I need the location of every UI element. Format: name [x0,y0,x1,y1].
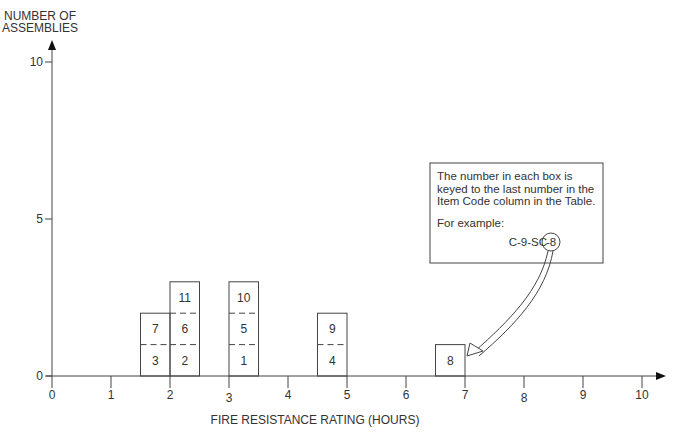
x-tick-label: 1 [108,388,115,402]
bar-item-label: 11 [179,291,192,305]
x-tick-label: 4 [285,388,292,402]
y-axis-label-line2: ASSEMBLIES [2,21,78,35]
x-tick-label: 10 [635,388,649,402]
annotation-text: Item Code column in the Table. [437,195,595,207]
bar-item-label: 5 [240,322,247,336]
bar-item-label: 9 [329,322,336,336]
x-axis-label: FIRE RESISTANCE RATING (HOURS) [211,413,420,427]
y-tick-label: 5 [36,212,43,226]
fire-resistance-chart: 0123456789100510 3726111510498 The numbe… [0,0,680,437]
bar-item-label: 7 [152,322,159,336]
x-tick-label: 6 [403,388,410,402]
annotation-example-prefix: C-9-SC [509,236,547,248]
x-tick-label: 2 [167,388,174,402]
bar-item-label: 8 [447,354,454,368]
bar-item-label: 3 [152,354,159,368]
pointer-arrow-line-a [474,251,548,352]
y-axis-arrow-icon [48,40,56,50]
x-tick-label: 8 [521,391,528,405]
bar-item-label: 6 [181,322,188,336]
x-tick-label: 5 [344,388,351,402]
bar-item-label: 2 [181,354,188,368]
bars: 3726111510498 [141,282,466,376]
y-tick-label: 10 [30,55,44,69]
x-tick-label: 0 [49,388,56,402]
y-tick-label: 0 [36,369,43,383]
pointer-arrow-line-b [479,251,553,356]
annotation-text: The number in each box is [437,170,573,182]
annotation-example-suffix: -8 [546,236,556,248]
x-axis-arrow-icon [656,372,666,380]
bar-item-label: 1 [240,354,247,368]
annotation: The number in each box iskeyed to the la… [430,163,603,356]
annotation-example-label: For example: [437,217,504,229]
bar-item-label: 4 [329,354,336,368]
x-tick-label: 3 [226,391,233,405]
bar-item-label: 10 [237,291,251,305]
x-tick-label: 9 [580,388,587,402]
annotation-text: keyed to the last number in the [437,183,594,195]
x-tick-label: 7 [462,388,469,402]
